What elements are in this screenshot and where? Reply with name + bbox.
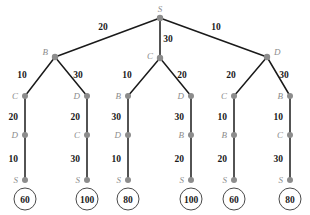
edge-cost-label: 10	[218, 112, 228, 122]
node-name-label: D	[177, 91, 185, 101]
edge-cost-label: 10	[122, 70, 132, 80]
leaf-value-text: 80	[123, 195, 133, 205]
tree-node-c[interactable]	[157, 55, 163, 61]
node-name-label: B	[43, 47, 49, 57]
node-name-label: S	[223, 175, 228, 185]
tree-node-s[interactable]	[231, 177, 237, 183]
tree-node-d[interactable]	[22, 132, 28, 138]
node-name-label: S	[158, 4, 163, 14]
tree-node-c[interactable]	[22, 93, 28, 99]
tree-node-s[interactable]	[287, 177, 293, 183]
node-name-label: S	[180, 175, 185, 185]
edge-cost-label: 20	[9, 112, 19, 122]
node-name-label: D	[114, 130, 122, 140]
node-name-label: B	[278, 91, 284, 101]
tree-node-c[interactable]	[84, 132, 90, 138]
tree-node-c[interactable]	[287, 132, 293, 138]
edge-level2-to-level3-2	[128, 58, 160, 96]
edge-cost-label: 30	[73, 70, 83, 80]
edge-cost-label: 10	[17, 70, 27, 80]
tree-node-d[interactable]	[84, 93, 90, 99]
edge-level2-to-level3-0	[25, 57, 55, 96]
leaf-value-text: 60	[229, 195, 239, 205]
tree-node-b[interactable]	[125, 93, 131, 99]
node-name-label: S	[279, 175, 284, 185]
edge-cost-label: 30	[274, 154, 284, 164]
tree-node-s[interactable]	[22, 177, 28, 183]
node-name-label: B	[222, 130, 228, 140]
tree-node-s[interactable]	[125, 177, 131, 183]
node-name-label: B	[116, 91, 122, 101]
node-name-label: S	[117, 175, 122, 185]
edge-cost-label: 20	[226, 70, 236, 80]
tree-canvas: 2030101030102020302010DS602030CS1003010D…	[0, 0, 310, 215]
edge-cost-label: 20	[175, 154, 185, 164]
leaf-value-text: 100	[80, 195, 95, 205]
node-name-label: D	[273, 47, 281, 57]
edge-cost-label: 30	[175, 112, 185, 122]
nodes-layer	[14, 15, 301, 210]
labels-layer: 2030101030102020302010DS602030CS1003010D…	[9, 4, 296, 205]
tree-node-b[interactable]	[52, 54, 58, 60]
node-name-label: C	[74, 130, 81, 140]
tree-node-s[interactable]	[84, 177, 90, 183]
tree-node-root-s[interactable]	[157, 15, 163, 21]
node-name-label: C	[147, 51, 154, 61]
tree-node-d[interactable]	[188, 93, 194, 99]
tree-node-b[interactable]	[287, 93, 293, 99]
node-name-label: B	[179, 130, 185, 140]
node-name-label: C	[12, 91, 19, 101]
tree-node-d[interactable]	[264, 54, 270, 60]
edge-cost-label: 30	[163, 34, 173, 44]
node-name-label: C	[221, 91, 228, 101]
edge-cost-label: 30	[71, 154, 81, 164]
edge-cost-label: 20	[177, 70, 187, 80]
node-name-label: D	[73, 91, 81, 101]
edge-cost-label: 20	[98, 22, 108, 32]
tree-node-d[interactable]	[125, 132, 131, 138]
node-name-label: S	[14, 175, 19, 185]
edge-level2-to-level3-4	[234, 57, 267, 96]
tree-node-b[interactable]	[231, 132, 237, 138]
edge-cost-label: 10	[274, 112, 284, 122]
edge-cost-label: 30	[112, 112, 122, 122]
edge-cost-label: 20	[71, 112, 81, 122]
search-tree-diagram: 2030101030102020302010DS602030CS1003010D…	[0, 0, 310, 215]
leaf-value-text: 80	[285, 195, 295, 205]
node-name-label: D	[11, 130, 19, 140]
leaf-value-text: 60	[20, 195, 30, 205]
tree-node-c[interactable]	[231, 93, 237, 99]
node-name-label: C	[277, 130, 284, 140]
edge-cost-label: 20	[218, 154, 228, 164]
edge-cost-label: 10	[211, 22, 221, 32]
edge-cost-label: 10	[9, 154, 19, 164]
edge-cost-label: 10	[112, 154, 122, 164]
edge-cost-label: 30	[279, 70, 289, 80]
node-name-label: S	[76, 175, 81, 185]
edges-layer	[25, 18, 290, 180]
leaf-value-text: 100	[184, 195, 199, 205]
tree-node-s[interactable]	[188, 177, 194, 183]
tree-node-b[interactable]	[188, 132, 194, 138]
